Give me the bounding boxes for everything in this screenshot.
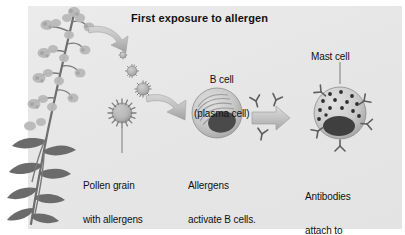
pollen-grain-trail [119,51,152,98]
pollen-caption: Pollen grain with allergens on surface. [83,157,143,235]
b-cell-caption: Allergens activate B cells. Plasma cells… [188,157,262,235]
allergy-first-exposure-diagram: First exposure to allergen B cell (plasm… [0,0,405,235]
b-cell-label-line1: B cell [194,74,249,85]
page-title: First exposure to allergen [131,13,268,24]
goldenrod-plant [7,7,95,224]
mast-cell-nucleus [323,116,355,136]
mast-cell [311,62,372,151]
mast-cell-caption: Antibodies attach to mast cell. [305,168,351,235]
pollen-grain-large [108,99,136,153]
curved-arrow-to-bcell [146,94,186,120]
b-cell-caption-line2: activate B cells. [188,214,262,225]
b-cell-caption-line1: Allergens [188,180,262,191]
mast-cell-caption-line2: attach to [305,225,351,235]
pollen-caption-line1: Pollen grain [83,180,143,191]
mast-cell-caption-line1: Antibodies [305,191,351,202]
b-cell-label: B cell (plasma cell) [194,51,249,142]
pollen-caption-line2: with allergens [83,214,143,225]
mast-cell-label: Mast cell [311,51,350,62]
curved-arrow-dispersal [88,26,128,52]
block-arrow-right [252,106,290,130]
b-cell-label-line2: (plasma cell) [194,108,249,119]
